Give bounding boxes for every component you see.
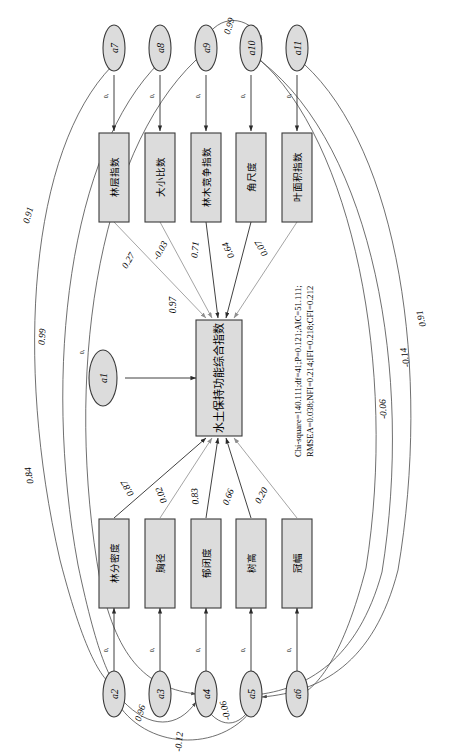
indicator-label-ind9: 树高 — [246, 553, 257, 573]
top-indicator-rects: 林层指数 大小比数 林木竞争指数 角尺度 叶面积指数 — [99, 133, 312, 222]
arrow-ind8-latent — [206, 438, 218, 518]
indicator-label-ind10: 冠幅 — [292, 553, 303, 573]
fit-statistics-line1: Chi-square=140.111;df=41;P=0.121;AIC=51.… — [293, 285, 303, 457]
bottom-indicator-rects: 林分密度 胸径 郁闭度 树高 冠幅 — [99, 519, 312, 608]
bottom-indicator-to-latent-arrows — [114, 438, 297, 518]
arrow-ind3-latent — [206, 222, 218, 318]
top-coefficient-labels: 0.27 -0.03 0.71 0.64 0.07 — [120, 238, 270, 271]
indicator-label-ind5: 叶面积指数 — [292, 152, 303, 202]
error-label-a4: a4 — [201, 689, 212, 699]
latent-residual-label: 0.97 — [168, 295, 178, 313]
cov-curve--0.06-right — [258, 58, 376, 696]
fit-statistics-line2: RMSEA=0.038;NFI=0.214;IFI=0.218;CFI=0.21… — [305, 286, 315, 457]
latent-label-swc: 水土保持功能综合指数 — [212, 323, 226, 433]
indicator-label-ind4: 角尺度 — [246, 162, 257, 192]
error-value-a5: 0, — [240, 647, 246, 652]
indicator-label-ind1: 林层指数 — [109, 157, 120, 197]
arrow-ind5-latent — [234, 222, 297, 318]
cov-label-left-1: 0.91 — [21, 206, 35, 225]
cov-label-bot-1: 0.96 — [133, 703, 148, 722]
cov-label-left-3: 0.84 — [23, 466, 36, 484]
error-value-a10: 0, — [240, 93, 246, 98]
arrow-ind7-latent — [160, 438, 212, 518]
error-label-a5: a5 — [246, 689, 257, 699]
cov-label-right-1: 0.91 — [414, 309, 428, 328]
indicator-label-ind3: 林木竞争指数 — [201, 147, 212, 207]
error-label-a8: a8 — [155, 43, 166, 53]
error-to-bottom-indicator-arrows — [114, 608, 297, 672]
disturbance-label-a1: a1 — [98, 373, 109, 383]
error-value-a4: 0, — [195, 647, 201, 652]
error-value-a3: 0, — [149, 647, 155, 652]
error-label-a2: a2 — [109, 689, 120, 699]
error-value-a8: 0, — [149, 93, 155, 98]
disturbance-value-a1: 0, — [79, 349, 85, 354]
coefficient-ind3: 0.71 — [189, 241, 201, 259]
fit-statistics: Chi-square=140.111;df=41;P=0.121;AIC=51.… — [293, 285, 315, 457]
error-value-a11: 0, — [286, 93, 292, 98]
coefficient-ind7: 0.02 — [153, 485, 169, 504]
sem-path-diagram: a7 a8 a9 a10 a11 0, 0, 0, 0, 0, 林层指数 大小比… — [0, 0, 451, 754]
coefficient-ind4: 0.64 — [220, 240, 236, 260]
error-label-a11: a11 — [292, 41, 303, 55]
error-value-a7: 0, — [103, 93, 109, 98]
coefficient-ind6: 0.87 — [118, 478, 135, 498]
error-label-a7: a7 — [109, 42, 120, 53]
cov-label-right-3: -0.06 — [377, 399, 388, 420]
cov-label-right-2: -0.14 — [398, 347, 411, 368]
error-value-a6: 0, — [286, 647, 292, 652]
arrow-ind10-latent — [234, 438, 297, 518]
indicator-label-ind7: 胸径 — [155, 553, 166, 573]
bottom-error-ellipses: a2 a3 a4 a5 a6 0, 0, 0, 0, 0, — [103, 647, 308, 717]
arrow-ind4-latent — [226, 222, 251, 318]
error-label-a10: a10 — [246, 41, 257, 56]
error-label-a3: a3 — [155, 689, 166, 699]
indicator-label-ind6: 林分密度 — [109, 543, 120, 583]
covariance-curves-right — [254, 58, 411, 697]
diagram-canvas: a7 a8 a9 a10 a11 0, 0, 0, 0, 0, 林层指数 大小比… — [0, 0, 451, 754]
cov-label-bot-2: -0.06 — [218, 700, 233, 722]
indicator-label-ind8: 郁闭度 — [201, 548, 212, 578]
arrow-ind6-latent — [114, 438, 206, 518]
bottom-coefficient-labels: 0.87 0.02 0.83 0.66 0.20 — [118, 478, 269, 507]
coefficient-ind10: 0.20 — [253, 486, 270, 506]
cov-label-a9-a10: 0.99 — [222, 16, 237, 35]
coefficient-ind2: -0.03 — [151, 239, 170, 261]
error-value-a9: 0, — [195, 93, 201, 98]
coefficient-ind1: 0.27 — [120, 250, 138, 270]
coefficient-ind8: 0.83 — [189, 487, 201, 505]
error-label-a6: a6 — [292, 689, 303, 699]
cov-label-bot-3: -0.12 — [173, 731, 185, 752]
cov-label-left-2: 0.99 — [36, 328, 47, 346]
coefficient-ind9: 0.66 — [220, 487, 236, 506]
error-value-a2: 0, — [103, 647, 109, 652]
top-error-ellipses: a7 a8 a9 a10 a11 0, 0, 0, 0, 0, — [103, 25, 308, 98]
cov-curve--0.14-right — [254, 62, 392, 695]
error-label-a9: a9 — [201, 43, 212, 53]
indicator-label-ind2: 大小比数 — [155, 157, 166, 197]
coefficient-ind5: 0.07 — [252, 238, 269, 258]
top-indicator-to-latent-arrows — [114, 222, 297, 318]
